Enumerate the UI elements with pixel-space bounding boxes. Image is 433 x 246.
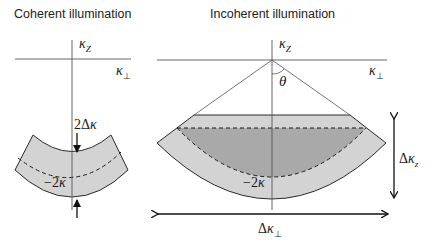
delta-kperp-label: Δκ⊥ <box>258 222 282 239</box>
diagram-canvas <box>0 0 433 246</box>
incoherent-title: Incoherent illumination <box>210 7 335 21</box>
incoherent-panel <box>157 40 394 214</box>
coherent-thickness-label: 2Δκ <box>74 118 97 132</box>
delta-kz-label: Δκz <box>399 152 418 169</box>
theta-label: θ <box>279 74 286 89</box>
coherent-band <box>15 135 128 197</box>
coherent-center-label: −2κ <box>44 176 66 190</box>
coherent-panel <box>15 40 131 218</box>
coherent-title: Coherent illumination <box>14 7 131 21</box>
coherent-kz-label: κZ <box>79 37 91 54</box>
incoherent-center-label: −2κ <box>243 176 265 190</box>
incoherent-kperp-label: κ⊥ <box>369 64 384 81</box>
cone-line-left <box>194 60 272 115</box>
incoherent-kz-label: κZ <box>279 37 291 54</box>
coherent-kperp-label: κ⊥ <box>116 64 131 81</box>
